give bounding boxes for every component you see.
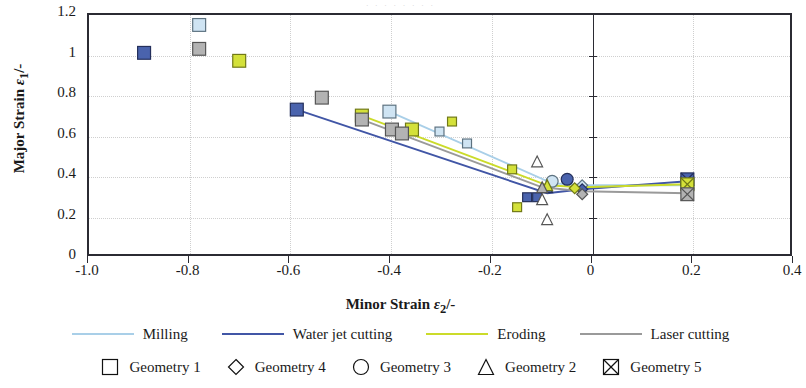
x-axis-title-suffix: /- <box>446 296 455 312</box>
y-tick-label: 0 <box>30 246 76 263</box>
x-tick-mark <box>87 256 88 263</box>
line-legend-swatch <box>72 333 134 335</box>
y-tick-label: 1 <box>30 44 76 61</box>
y-axis-title: Major Strain ε1/- <box>11 14 32 224</box>
y-tick-label: 0.4 <box>30 165 76 182</box>
marker-legend-item[interactable]: Geometry 5 <box>600 356 701 378</box>
data-point-marker <box>479 360 494 375</box>
y-axis-title-suffix: /- <box>11 64 27 73</box>
x-tick-mark <box>188 256 189 263</box>
line-legend-label: Laser cutting <box>651 326 730 343</box>
clipped-header-strip: · · · · · · · · <box>0 0 801 9</box>
marker-legend-item[interactable]: Geometry 3 <box>350 356 451 378</box>
marker-legend-glyph-circle <box>350 356 372 378</box>
marker-shape-legend: Geometry 1Geometry 4Geometry 3Geometry 2… <box>0 352 801 382</box>
x-tick-label: -0.6 <box>263 262 313 279</box>
line-legend-swatch <box>580 333 642 335</box>
data-point-marker <box>383 105 396 118</box>
data-point-marker <box>193 42 206 55</box>
y-axis-title-sub: 1 <box>17 73 31 79</box>
x-tick-label: -1.0 <box>62 262 112 279</box>
data-point-marker <box>561 173 573 185</box>
data-point-marker <box>523 193 532 202</box>
y-tick-label: 0.6 <box>30 125 76 142</box>
marker-legend-item[interactable]: Geometry 2 <box>475 356 576 378</box>
x-axis-title-text: Minor Strain <box>346 296 434 312</box>
x-tick-label: 0 <box>566 262 616 279</box>
x-tick-label: -0.2 <box>465 262 515 279</box>
data-point-marker <box>315 91 328 104</box>
y-tick-label: 0.8 <box>30 84 76 101</box>
x-tick-label: 0.2 <box>666 262 716 279</box>
data-point-marker <box>193 19 206 32</box>
marker-legend-glyph-diamond <box>225 356 247 378</box>
y-axis-title-text: Major Strain <box>11 85 27 173</box>
marker-legend-glyph-triangle <box>475 356 497 378</box>
y-axis-title-symbol: ε <box>11 79 27 85</box>
marker-legend-label: Geometry 5 <box>630 359 701 376</box>
data-point-marker <box>513 203 522 212</box>
data-point-marker <box>355 113 368 126</box>
x-tick-label: -0.4 <box>364 262 414 279</box>
data-point-marker <box>435 127 444 136</box>
marker-legend-label: Geometry 1 <box>129 359 200 376</box>
marker-legend-label: Geometry 3 <box>380 359 451 376</box>
line-legend-swatch <box>222 333 284 335</box>
marker-legend-item[interactable]: Geometry 4 <box>225 356 326 378</box>
y-tick-label: 0.2 <box>30 206 76 223</box>
x-tick-mark <box>389 256 390 263</box>
x-tick-label: 0.4 <box>767 262 806 279</box>
data-point-marker <box>138 46 151 59</box>
line-legend-item[interactable]: Milling <box>72 326 188 343</box>
data-series-overlay <box>89 15 790 254</box>
plot-area <box>87 13 792 256</box>
x-tick-mark <box>691 256 692 263</box>
x-axis-title: Minor Strain ε2/- <box>0 296 801 317</box>
data-point-marker <box>290 103 303 116</box>
data-point-marker <box>542 214 553 225</box>
x-tick-mark <box>288 256 289 263</box>
y-tick-label: 1.2 <box>30 3 76 20</box>
line-style-legend: MillingWater jet cuttingErodingLaser cut… <box>0 322 801 346</box>
data-point-marker <box>103 360 118 375</box>
line-legend-item[interactable]: Eroding <box>426 326 545 343</box>
marker-legend-glyph-crossbox <box>600 356 622 378</box>
marker-legend-label: Geometry 2 <box>505 359 576 376</box>
marker-legend-label: Geometry 4 <box>255 359 326 376</box>
line-legend-label: Water jet cutting <box>293 326 393 343</box>
x-tick-mark <box>792 256 793 263</box>
data-point-marker <box>353 360 368 375</box>
x-tick-label: -0.8 <box>163 262 213 279</box>
x-tick-mark <box>490 256 491 263</box>
data-point-marker <box>604 360 619 375</box>
marker-legend-item[interactable]: Geometry 1 <box>99 356 200 378</box>
data-point-marker <box>228 360 243 375</box>
line-legend-item[interactable]: Water jet cutting <box>222 326 393 343</box>
data-point-marker <box>681 188 694 201</box>
data-point-marker <box>233 54 246 67</box>
line-legend-label: Milling <box>143 326 188 343</box>
line-legend-label: Eroding <box>497 326 545 343</box>
series-line <box>389 112 687 186</box>
marker-legend-glyph-square <box>99 356 121 378</box>
data-point-marker <box>532 156 543 167</box>
data-point-marker <box>463 139 472 148</box>
data-point-marker <box>448 117 457 126</box>
line-legend-item[interactable]: Laser cutting <box>580 326 730 343</box>
data-point-marker <box>395 127 408 140</box>
data-point-marker <box>508 165 517 174</box>
x-tick-mark <box>591 256 592 263</box>
line-legend-swatch <box>426 333 488 335</box>
